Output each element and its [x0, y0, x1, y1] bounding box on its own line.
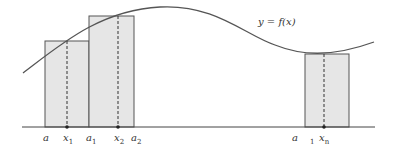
point-x2 — [116, 125, 120, 129]
riemann-sum-diagram: y = f(x) a x1 a1 x2 a2 a 1 xn — [0, 0, 395, 146]
point-x1 — [65, 125, 69, 129]
rectangle-n — [305, 54, 349, 127]
label-xn: xn — [319, 133, 329, 146]
label-sub-1: 1 — [310, 133, 314, 146]
diagram-graphic — [0, 0, 395, 146]
label-a2: a2 — [131, 133, 141, 146]
rectangles — [45, 16, 349, 127]
label-x2: x2 — [114, 133, 124, 146]
curve-label: y = f(x) — [258, 17, 296, 27]
label-a: a — [43, 133, 49, 143]
label-a-n-minus-1: a — [292, 133, 298, 143]
rectangle-2 — [89, 16, 134, 127]
label-x1: x1 — [63, 133, 73, 146]
label-a1: a1 — [86, 133, 96, 146]
point-xn — [322, 125, 326, 129]
